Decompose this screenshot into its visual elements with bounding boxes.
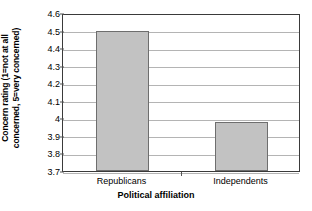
plot-area [62, 14, 300, 172]
y-axis-title: Concern rating (1=not at all concerned, … [0, 0, 36, 180]
bar-chart: Concern rating (1=not at all concerned, … [0, 0, 312, 211]
y-axis-tick-mark [60, 136, 64, 137]
x-axis-title: Political affiliation [0, 190, 312, 201]
y-axis-tick-label: 3.8 [36, 150, 60, 159]
y-axis-tick-mark [60, 101, 64, 102]
y-axis-tick-mark [60, 66, 64, 67]
y-axis-tick-mark [60, 172, 64, 173]
y-axis-tick-label: 4 [36, 115, 60, 124]
y-axis-tick-mark [60, 31, 64, 32]
y-axis-tick-label: 4.2 [36, 80, 60, 89]
x-axis-tick-mark [181, 172, 182, 176]
y-axis-tick-label: 4.3 [36, 62, 60, 71]
y-axis-tick-mark [60, 49, 64, 50]
y-axis-tick-mark [60, 119, 64, 120]
y-axis-tick-label: 4.5 [36, 27, 60, 36]
y-axis-tick-label: 3.9 [36, 132, 60, 141]
y-axis-tick-mark [60, 154, 64, 155]
y-axis-tick-label: 4.4 [36, 45, 60, 54]
y-axis-tick-label: 4.6 [36, 10, 60, 19]
y-axis-tick-label: 4.1 [36, 97, 60, 106]
y-axis-tick-mark [60, 14, 64, 15]
y-axis-title-line1: Concern rating (1=not at all [0, 0, 11, 176]
bar [96, 31, 149, 171]
x-axis-category-label: Republicans [62, 176, 181, 187]
x-axis-category-label: Independents [181, 176, 300, 187]
y-axis-title-line2: concerned, 5=very concerned) [11, 0, 22, 176]
y-axis-tick-labels: 4.64.54.44.34.24.143.93.83.7 [36, 0, 60, 211]
y-axis-tick-mark [60, 84, 64, 85]
y-axis-tick-label: 3.7 [36, 168, 60, 177]
bar [215, 122, 268, 171]
